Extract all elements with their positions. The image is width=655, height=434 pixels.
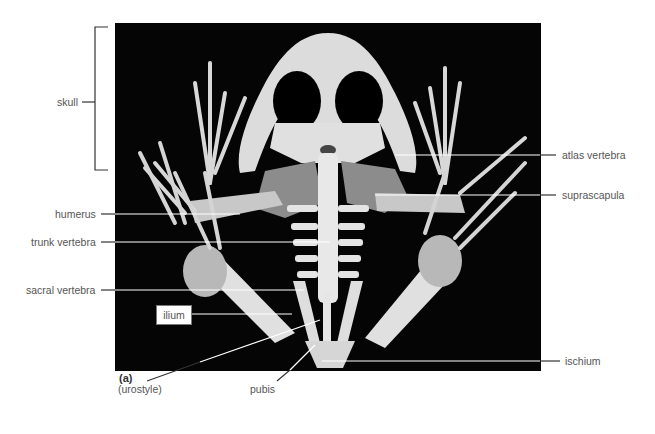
- panel-label: (a): [119, 372, 132, 384]
- label-sacral-vertebra: sacral vertebra: [26, 284, 95, 296]
- right-humerus: [375, 193, 465, 213]
- left-orbit: [273, 71, 321, 131]
- left-humerus: [190, 191, 283, 223]
- label-suprascapula: suprascapula: [562, 189, 624, 201]
- pubis-ischium: [305, 341, 355, 368]
- right-orbit: [335, 71, 383, 131]
- label-pubis: pubis: [250, 383, 275, 395]
- right-ankle: [418, 235, 462, 287]
- label-ilium: ilium: [156, 305, 192, 325]
- vertebral-column: [318, 153, 338, 303]
- label-urostyle: (urostyle): [118, 383, 162, 395]
- label-humerus: humerus: [55, 208, 96, 220]
- skull-bracket: [95, 27, 108, 170]
- left-ilium: [293, 281, 320, 345]
- label-atlas-vertebra: atlas vertebra: [562, 149, 626, 161]
- right-ilium: [337, 281, 363, 345]
- label-trunk-vertebra: trunk vertebra: [31, 236, 96, 248]
- label-ischium: ischium: [565, 355, 601, 367]
- left-ankle: [183, 245, 227, 297]
- label-skull: skull: [57, 96, 78, 108]
